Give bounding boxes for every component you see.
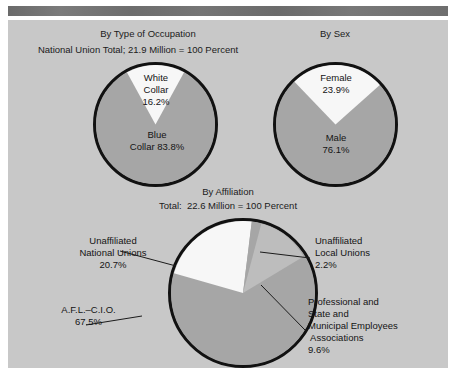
occupation-title: By Type of Occupation <box>38 28 258 40</box>
leader-unaffiliated-local <box>260 252 310 258</box>
sex-title: By Sex <box>270 28 400 40</box>
leader-afl-cio <box>86 316 142 325</box>
sex-pie <box>273 62 398 187</box>
sex-pie-svg <box>276 65 395 184</box>
header-bar <box>8 6 448 16</box>
occupation-pie-svg <box>96 65 215 184</box>
leader-unaffiliated-national <box>120 251 176 266</box>
occupation-pie <box>93 62 218 187</box>
leader-professional <box>261 285 305 330</box>
occupation-subtitle: National Union Total; 21.9 Million = 100… <box>13 44 263 56</box>
figure-page: By Type of Occupation National Union Tot… <box>0 0 456 374</box>
affiliation-leader-lines <box>8 180 448 368</box>
chart-plate: By Type of Occupation National Union Tot… <box>8 20 448 368</box>
